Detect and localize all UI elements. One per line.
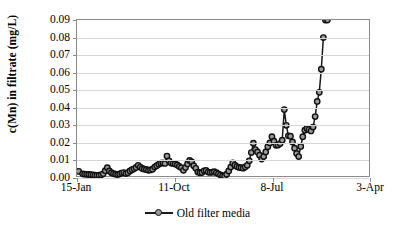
series-line — [79, 38, 324, 176]
y-tick-mark — [73, 90, 77, 91]
y-tick-mark — [73, 20, 77, 21]
chart-legend: Old filter media — [0, 203, 395, 223]
y-tick-label: 0.01 — [26, 154, 70, 166]
x-tick-label: 3-Apr — [330, 181, 395, 193]
data-point-marker — [315, 99, 320, 104]
y-tick-label: 0.09 — [26, 14, 70, 26]
gridline — [77, 125, 369, 126]
data-point-marker — [325, 20, 330, 23]
y-tick-mark — [73, 38, 77, 39]
y-tick-label: 0.07 — [26, 49, 70, 61]
gridline — [77, 55, 369, 56]
y-tick-label: 0.06 — [26, 67, 70, 79]
y-tick-mark — [73, 160, 77, 161]
data-point-marker — [300, 134, 305, 139]
y-tick-mark — [73, 73, 77, 74]
data-point-marker — [296, 154, 301, 159]
y-tick-mark — [73, 125, 77, 126]
data-point-marker — [298, 144, 303, 149]
y-tick-label: 0.04 — [26, 102, 70, 114]
y-tick-mark — [73, 108, 77, 109]
y-tick-label: 0.03 — [26, 119, 70, 131]
gridline — [77, 108, 369, 109]
legend-marker-icon — [145, 208, 173, 218]
chart-container: c(Mn) in filtrate (mg/L) 0.000.010.020.0… — [0, 0, 395, 232]
data-point-marker — [312, 114, 317, 119]
legend-label-old-filter-media: Old filter media — [177, 207, 250, 219]
y-tick-mark — [73, 55, 77, 56]
gridline — [77, 143, 369, 144]
data-series-old-filter-media — [77, 20, 371, 178]
y-tick-label: 0.08 — [26, 32, 70, 44]
x-tick-label: 11-Oct — [134, 181, 214, 193]
x-tick-label: 15-Jan — [36, 181, 116, 193]
y-tick-label: 0.05 — [26, 84, 70, 96]
plot-area — [76, 19, 370, 177]
gridline — [77, 178, 369, 179]
y-tick-label: 0.02 — [26, 137, 70, 149]
y-tick-mark — [73, 143, 77, 144]
data-point-marker — [288, 134, 293, 139]
gridline — [77, 160, 369, 161]
x-tick-label: 8-Jul — [232, 181, 312, 193]
gridline — [77, 73, 369, 74]
data-point-marker — [319, 66, 324, 71]
gridline — [77, 38, 369, 39]
gridline — [77, 90, 369, 91]
